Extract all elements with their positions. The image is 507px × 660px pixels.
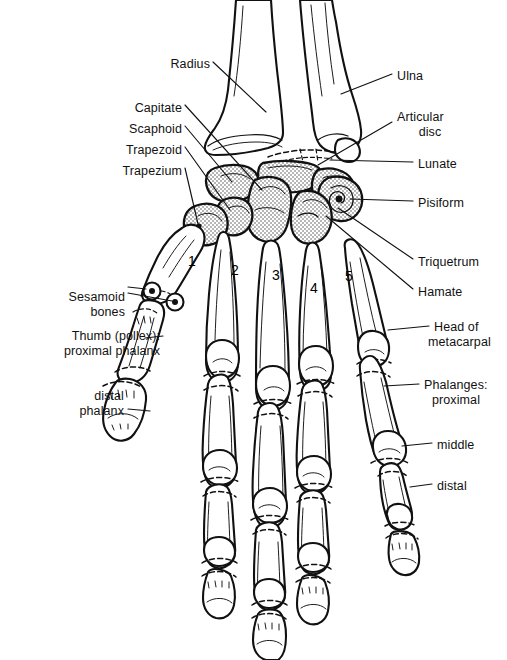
metacarpal-4 [297,243,335,392]
metacarpal-5 [345,239,391,366]
finger-2-middle [202,484,237,568]
label-ulna: Ulna [397,69,423,84]
metacarpal-number-5: 5 [345,268,353,284]
metacarpal-3 [254,241,292,411]
metacarpal-number-4: 4 [310,280,318,296]
label-thumb-line1: Thumb (pollex): [22,329,160,344]
finger-5-proximal [357,356,408,466]
label-sesamoid-line1: Sesamoid [33,290,125,305]
metacarpal-number-2: 2 [231,262,239,278]
carpal-bones-group [184,161,362,245]
finger-2-proximal [201,375,239,488]
finger-4-proximal [295,381,333,494]
label-pisiform: Pisiform [418,196,464,211]
metacarpal-2 [204,232,240,382]
label-distal-phalanx-line2: phalanx [38,404,124,419]
finger-5-distal [386,531,419,575]
label-triquetrum: Triquetrum [418,255,479,270]
hamate-bone [291,191,332,244]
label-hamate: Hamate [418,285,462,300]
finger-4-middle [296,490,331,574]
finger-3-middle [252,522,287,610]
label-scaphoid: Scaphoid [104,122,182,137]
figure-canvas: .bone{fill:#ffffff;stroke:#111;stroke-wi… [0,0,507,660]
label-distal-phalanx-line1: distal [38,389,124,404]
label-phalanges-line2: proximal [432,393,480,408]
label-head-metacarpal-line1: Head of [434,320,478,335]
ulna-bone [300,0,361,162]
finger-5-middle [378,463,416,529]
label-trapezoid: Trapezoid [100,143,182,158]
radius-bone [205,0,283,155]
metacarpal-number-1: 1 [188,253,196,269]
finger-3-proximal [251,403,289,528]
finger-4-distal [296,575,330,624]
label-sesamoid-line2: bones [33,305,125,320]
label-radius: Radius [148,57,210,72]
finger-3-distal [252,610,286,660]
label-distal: distal [437,479,467,494]
finger-2-distal [202,569,236,618]
label-capitate: Capitate [120,101,182,116]
label-head-metacarpal-line2: metacarpal [428,335,491,350]
label-articular-line1: Articular [397,110,444,125]
label-trapezium: Trapezium [88,164,182,179]
label-lunate: Lunate [418,157,457,172]
label-phalanges-line1: Phalanges: [424,378,488,393]
label-articular-line2: disc [397,125,463,140]
label-middle: middle [437,438,474,453]
label-thumb-line2: proximal phalanx [22,344,160,359]
metacarpal-number-3: 3 [272,267,280,283]
